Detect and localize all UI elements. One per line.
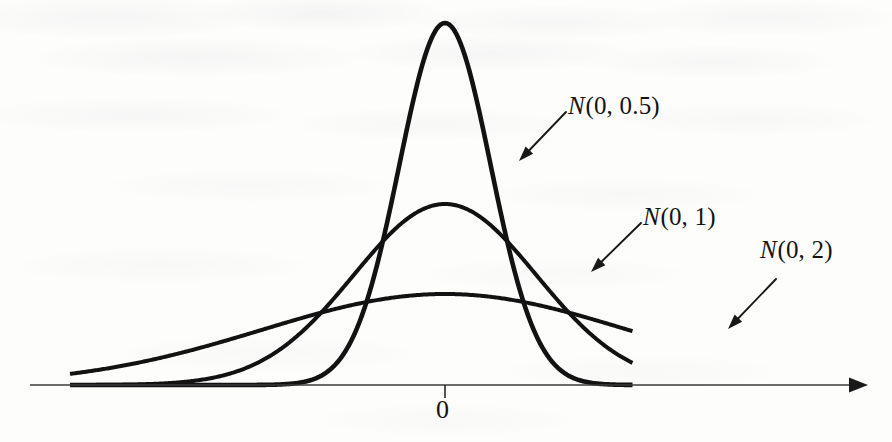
x-axis-origin-label: 0 (436, 395, 449, 425)
pointer-n-0-2-shaft (734, 279, 776, 323)
label-args: (0, 2) (777, 236, 835, 263)
pointer-n-0-1-shaft (597, 223, 641, 266)
x-axis-arrowhead-icon (849, 378, 868, 393)
curve-label-n-0-1: N(0, 1) (643, 203, 719, 231)
curve-label-n-0-0-5: N(0, 0.5) (568, 92, 663, 120)
label-args: (0, 0.5) (585, 92, 663, 119)
curve-label-n-0-2: N(0, 2) (760, 236, 836, 264)
x-axis (30, 378, 868, 399)
label-args: (0, 1) (660, 203, 718, 230)
label-symbol-n: N (760, 236, 777, 263)
curve-n-0-2 (70, 294, 633, 374)
pointer-n-0-0-5-shaft (525, 112, 566, 155)
plot-canvas (0, 0, 892, 442)
density-curves (70, 23, 633, 385)
label-symbol-n: N (568, 92, 585, 119)
normal-distribution-figure: N(0, 0.5) N(0, 1) N(0, 2) 0 (0, 0, 892, 442)
label-symbol-n: N (643, 203, 660, 230)
curve-n-0-0-5 (70, 23, 633, 385)
